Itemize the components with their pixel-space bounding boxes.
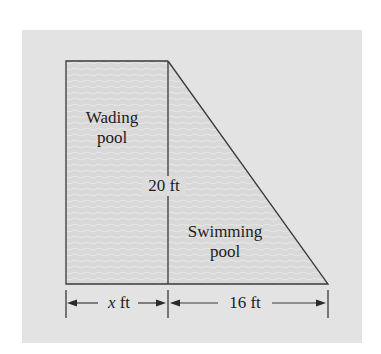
- arrow-x-left-head: [67, 300, 77, 307]
- swimming-width-dimension-label: 16 ft: [220, 293, 270, 313]
- arrow-16-left-head: [170, 300, 180, 307]
- wading-pool-label-line2: pool: [72, 128, 152, 148]
- arrow-16-right-head: [316, 300, 326, 307]
- arrow-x-right-head: [156, 300, 166, 307]
- wading-width-dimension-label: x ft: [100, 293, 138, 313]
- width-unit: ft: [115, 293, 130, 312]
- wading-pool-shape: [66, 61, 168, 284]
- wading-pool-label-line1: Wading: [72, 108, 152, 128]
- height-dimension-label: 20 ft: [142, 176, 186, 196]
- swimming-pool-label-line2: pool: [170, 242, 280, 262]
- pool-diagram: [0, 0, 381, 354]
- wading-pool-label: Wading pool: [72, 108, 152, 148]
- swimming-pool-label: Swimming pool: [170, 222, 280, 262]
- swimming-pool-label-line1: Swimming: [170, 222, 280, 242]
